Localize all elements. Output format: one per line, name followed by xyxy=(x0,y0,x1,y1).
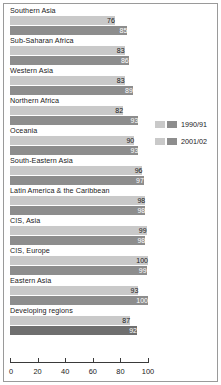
bar-row: 98 xyxy=(10,196,148,205)
bar-value-label: 97 xyxy=(10,176,146,185)
bar-row: 97 xyxy=(10,176,148,185)
bar-group: South-Eastern Asia9697 xyxy=(10,156,148,185)
bar-value-label: 98 xyxy=(10,196,147,205)
bar-group: Developing regions8792 xyxy=(10,306,148,335)
x-axis-tick xyxy=(148,358,149,363)
x-axis-tick xyxy=(38,358,39,363)
category-label: CIS, Europe xyxy=(10,246,148,256)
bar-group: CIS, Asia9998 xyxy=(10,216,148,245)
bar-row: 93 xyxy=(10,286,148,295)
bar-value-label: 93 xyxy=(10,146,140,155)
bar-row: 87 xyxy=(10,316,148,325)
chart-plot-area: Southern Asia7685Sub-Saharan Africa8386W… xyxy=(10,6,148,336)
bar-row: 99 xyxy=(10,226,148,235)
bar-row: 83 xyxy=(10,46,148,55)
bar-value-label: 90 xyxy=(10,136,136,145)
bar-group: Oceania9093 xyxy=(10,126,148,155)
legend-item: 1990/91 xyxy=(155,120,217,129)
legend-swatch-light xyxy=(155,138,165,145)
chart-legend: 1990/912001/02 xyxy=(155,120,217,154)
bar-value-label: 86 xyxy=(10,56,131,65)
bar-row: 98 xyxy=(10,206,148,215)
legend-swatch xyxy=(155,138,177,145)
bar-value-label: 83 xyxy=(10,46,127,55)
bar-value-label: 93 xyxy=(10,116,140,125)
x-axis-tick-label: 100 xyxy=(142,367,154,376)
x-axis-tick-label: 20 xyxy=(33,367,41,376)
legend-item: 2001/02 xyxy=(155,137,217,146)
bar-value-label: 98 xyxy=(10,236,147,245)
category-label: Northern Africa xyxy=(10,96,148,106)
x-axis: 020406080100 xyxy=(10,362,148,363)
category-label: Sub-Saharan Africa xyxy=(10,36,148,46)
bar-value-label: 99 xyxy=(10,226,149,235)
bar-row: 85 xyxy=(10,26,148,35)
x-axis-tick xyxy=(93,358,94,363)
legend-swatch-light xyxy=(155,121,165,128)
category-label: Latin America & the Caribbean xyxy=(10,186,148,196)
bar-value-label: 85 xyxy=(10,26,129,35)
bar-value-label: 100 xyxy=(10,296,150,305)
bar-row: 93 xyxy=(10,146,148,155)
bar-value-label: 96 xyxy=(10,166,144,175)
category-label: CIS, Asia xyxy=(10,216,148,226)
bar-value-label: 93 xyxy=(10,286,140,295)
bar-row: 89 xyxy=(10,86,148,95)
x-axis-tick xyxy=(10,358,11,363)
x-axis-tick xyxy=(65,358,66,363)
bar-row: 98 xyxy=(10,236,148,245)
bar-value-label: 83 xyxy=(10,76,127,85)
bar-group: CIS, Europe10099 xyxy=(10,246,148,275)
bar-row: 82 xyxy=(10,106,148,115)
legend-swatch-dark xyxy=(167,138,177,145)
category-label: Western Asia xyxy=(10,66,148,76)
bar-row: 96 xyxy=(10,166,148,175)
legend-label: 1990/91 xyxy=(181,120,207,129)
legend-label: 2001/02 xyxy=(181,137,207,146)
bar-group: Western Asia8389 xyxy=(10,66,148,95)
x-axis-tick-label: 0 xyxy=(9,367,13,376)
x-axis-tick-label: 40 xyxy=(61,367,69,376)
bar-row: 76 xyxy=(10,16,148,25)
bar-row: 83 xyxy=(10,76,148,85)
bar-value-label: 98 xyxy=(10,206,147,215)
bar-row: 100 xyxy=(10,296,148,305)
legend-swatch xyxy=(155,121,177,128)
bar-value-label: 92 xyxy=(10,326,139,335)
bar-row: 86 xyxy=(10,56,148,65)
category-label: Developing regions xyxy=(10,306,148,316)
bar-group: Northern Africa8293 xyxy=(10,96,148,125)
bar-value-label: 100 xyxy=(10,256,150,265)
bar-row: 93 xyxy=(10,116,148,125)
category-label: Oceania xyxy=(10,126,148,136)
bar-value-label: 99 xyxy=(10,266,149,275)
legend-swatch-dark xyxy=(167,121,177,128)
bar-row: 99 xyxy=(10,266,148,275)
bar-group: Sub-Saharan Africa8386 xyxy=(10,36,148,65)
x-axis-tick xyxy=(120,358,121,363)
x-axis-tick-label: 60 xyxy=(89,367,97,376)
bar-row: 92 xyxy=(10,326,148,335)
bar-group: Latin America & the Caribbean9898 xyxy=(10,186,148,215)
bar-value-label: 87 xyxy=(10,316,132,325)
bar-value-label: 82 xyxy=(10,106,125,115)
x-axis-tick-label: 80 xyxy=(116,367,124,376)
bar-value-label: 89 xyxy=(10,86,135,95)
bar-row: 100 xyxy=(10,256,148,265)
category-label: Southern Asia xyxy=(10,6,148,16)
bar-chart: Southern Asia7685Sub-Saharan Africa8386W… xyxy=(0,0,221,385)
bar-row: 90 xyxy=(10,136,148,145)
category-label: Eastern Asia xyxy=(10,276,148,286)
bar-group: Eastern Asia93100 xyxy=(10,276,148,305)
category-label: South-Eastern Asia xyxy=(10,156,148,166)
bar-value-label: 76 xyxy=(10,16,117,25)
bar-group: Southern Asia7685 xyxy=(10,6,148,35)
